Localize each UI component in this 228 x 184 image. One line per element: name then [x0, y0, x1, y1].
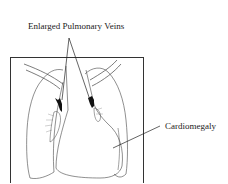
- right-lung-outline: [27, 69, 63, 178]
- hilar-vessels: [55, 96, 94, 112]
- heart-inner-edge: [118, 128, 120, 170]
- pointer-cardiomegaly: [113, 126, 160, 148]
- heart-silhouette: [56, 66, 122, 178]
- hilum-left-shape: [50, 112, 61, 143]
- xray-frame: [11, 58, 144, 184]
- chest-diagram: [0, 0, 228, 183]
